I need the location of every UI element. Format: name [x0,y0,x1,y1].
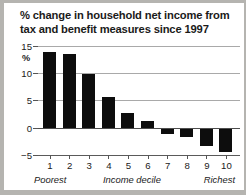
xtick-mark-4 [108,155,109,159]
plot-area: 15 10 5 0 −5 % [4,3,244,190]
xtick-mark-5 [128,155,129,159]
bar-decile-3 [82,74,95,128]
xtick-mark-6 [148,155,149,159]
bar-decile-5 [121,113,134,128]
xtick-label-2: 2 [60,160,80,171]
ytick-mark-minus5 [33,155,38,156]
xtick-mark-1 [50,155,51,159]
ytick-mark-10 [33,73,38,74]
ytick-mark-5 [33,100,38,101]
xtick-label-5: 5 [118,160,138,171]
xtick-mark-10 [226,155,227,159]
x-axis-caption-poorest: Poorest [34,174,66,185]
xtick-mark-7 [167,155,168,159]
xtick-label-1: 1 [40,160,60,171]
xtick-label-4: 4 [99,160,119,171]
x-axis-caption-richest: Richest [204,174,235,185]
bar-decile-10 [219,129,232,152]
bar-decile-4 [102,97,115,128]
x-axis-caption-income-decile: Income decile [103,174,161,185]
xtick-mark-3 [89,155,90,159]
bar-decile-8 [180,129,193,137]
bar-decile-9 [200,129,213,146]
bar-decile-2 [63,54,76,129]
xtick-label-9: 9 [197,160,217,171]
ytick-label-minus5: −5 [6,150,32,161]
ytick-mark-0 [33,128,38,129]
bar-decile-1 [43,52,56,128]
xtick-label-3: 3 [79,160,99,171]
axis-line-bottom [37,155,240,156]
xtick-label-7: 7 [158,160,178,171]
bar-decile-6 [141,121,154,128]
ytick-label-15: 15 [6,41,32,52]
xtick-mark-2 [69,155,70,159]
xtick-label-8: 8 [177,160,197,171]
xtick-mark-9 [206,155,207,159]
y-axis-label: % [22,53,30,63]
gridline-15 [37,46,240,47]
ytick-label-5: 5 [6,95,32,106]
ytick-label-10: 10 [6,68,32,79]
bar-decile-7 [161,129,174,134]
xtick-label-10: 10 [216,160,236,171]
ytick-mark-15 [33,46,38,47]
chart-card: % change in household net income from ta… [4,3,244,190]
ytick-label-0: 0 [6,123,32,134]
xtick-label-6: 6 [138,160,158,171]
chart-figure: % change in household net income from ta… [0,0,246,195]
xtick-mark-8 [187,155,188,159]
